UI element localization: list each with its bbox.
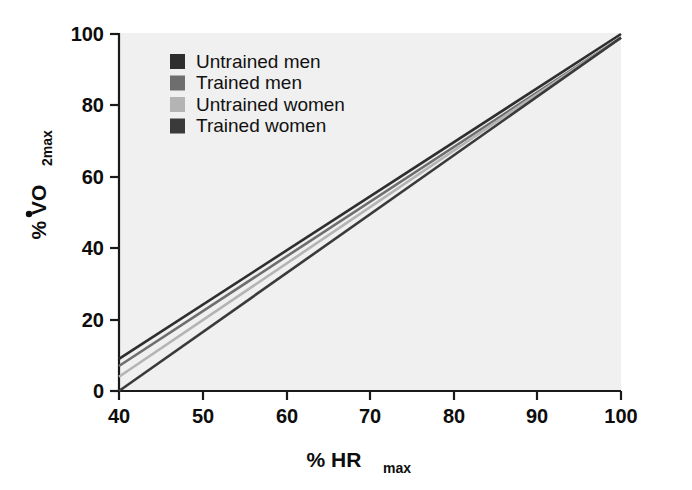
x-axis-ticks [119,391,621,400]
x-tick-label-90: 90 [526,405,548,427]
y-tick-label-20: 20 [82,309,104,331]
x-tick-label-100: 100 [604,405,637,427]
legend-label-trained-men: Trained men [196,72,302,93]
chart-svg: 100 80 60 40 20 0 40 50 60 70 80 90 100 [0,0,692,490]
y-tick-label-60: 60 [82,166,104,188]
y-axis-title-sub: 2max [39,130,55,166]
y-tick-label-0: 0 [93,380,104,402]
legend-label-trained-women: Trained women [196,115,326,136]
y-tick-label-100: 100 [71,23,104,45]
y-tick-label-40: 40 [82,237,104,259]
y-tick-label-80: 80 [82,94,104,116]
legend-label-untrained-men: Untrained men [196,51,321,72]
legend-swatch-untrained-men [170,54,185,69]
x-axis-title-sub: max [383,460,411,476]
legend-label-untrained-women: Untrained women [196,94,345,115]
x-tick-label-70: 70 [359,405,381,427]
y-axis-title: % VO 2max [26,130,55,239]
v-dot-overdot-icon [26,211,32,217]
legend-swatch-untrained-women [170,97,185,112]
legend-swatch-trained-men [170,76,185,91]
y-axis-tick-labels: 100 80 60 40 20 0 [71,23,104,402]
x-axis-title-main: % HR [307,448,362,471]
legend-swatch-trained-women [170,119,185,134]
y-axis-ticks [110,34,119,391]
x-tick-label-50: 50 [192,405,214,427]
legend: Untrained menTrained menUntrained womenT… [170,51,345,137]
x-axis-tick-labels: 40 50 60 70 80 90 100 [108,405,638,427]
x-tick-label-60: 60 [276,405,298,427]
x-axis-title: % HR max [307,448,412,476]
x-tick-label-80: 80 [443,405,465,427]
figure-container: 100 80 60 40 20 0 40 50 60 70 80 90 100 [0,0,692,490]
x-tick-label-40: 40 [108,405,130,427]
